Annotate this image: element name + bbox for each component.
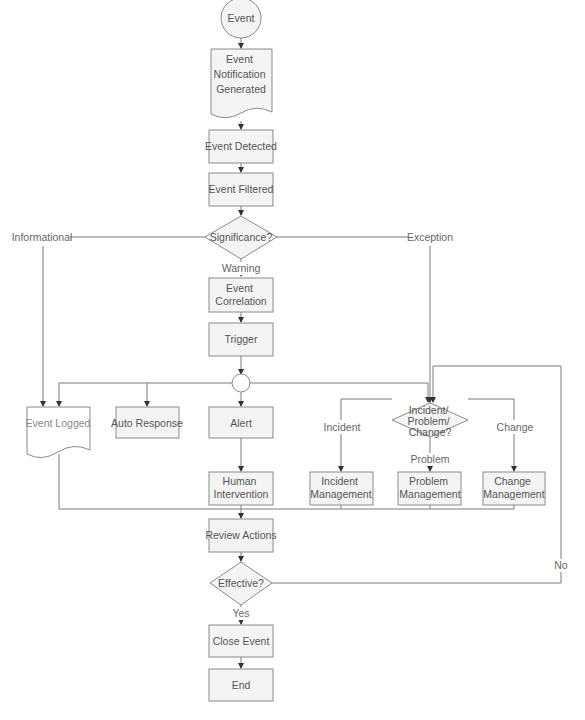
node-alert[interactable]: Alert [209, 407, 273, 438]
label-warning: Warning [222, 262, 261, 274]
node-incident-mgmt-line1: Incident [321, 475, 358, 487]
node-problem-mgmt-line1: Problem [409, 475, 448, 487]
node-effective-decision[interactable]: Effective? [210, 562, 272, 605]
node-correlation-line2: Correlation [215, 295, 267, 307]
node-junction [232, 374, 250, 392]
node-problem-management[interactable]: Problem Management [398, 472, 461, 505]
node-notification-line2: Notification [214, 68, 266, 80]
node-human-line2: Intervention [214, 488, 269, 500]
node-change-mgmt-line2: Management [483, 488, 544, 500]
node-start-event[interactable]: Event [221, 0, 261, 38]
node-incident-management[interactable]: Incident Management [310, 472, 373, 505]
label-yes: Yes [232, 607, 249, 619]
label-incident: Incident [324, 421, 361, 433]
node-trigger[interactable]: Trigger [209, 323, 273, 356]
node-notification-line1: Event [226, 53, 253, 65]
node-correlation-line1: Event [226, 282, 253, 294]
edge-ipc-change [468, 399, 514, 471]
node-notification-generated[interactable]: Event Notification Generated [211, 49, 272, 118]
node-event-filtered[interactable]: Event Filtered [209, 173, 274, 206]
node-event-logged[interactable]: Event Logged [26, 407, 91, 458]
node-change-mgmt-line1: Change [494, 475, 531, 487]
node-close-event[interactable]: Close Event [209, 625, 273, 657]
label-informational: Informational [12, 231, 73, 243]
node-ipc-label: Incident/ Problem/ Change? [408, 404, 453, 438]
node-trigger-label: Trigger [225, 333, 258, 345]
connectors [43, 38, 561, 668]
node-close-label: Close Event [213, 635, 270, 647]
node-auto-response[interactable]: Auto Response [111, 407, 183, 438]
label-exception: Exception [407, 231, 453, 243]
edge-junction-logged [59, 383, 232, 406]
edge-labels: Informational Exception Warning Incident… [12, 230, 569, 620]
node-change-management[interactable]: Change Management [483, 472, 545, 505]
node-end[interactable]: End [209, 669, 273, 701]
edge-ipc-incident [341, 399, 392, 471]
label-change: Change [497, 421, 534, 433]
node-human-intervention[interactable]: Human Intervention [209, 472, 273, 505]
label-no: No [554, 559, 568, 571]
node-logged-label: Event Logged [26, 417, 91, 429]
label-problem: Problem [410, 453, 449, 465]
node-notification-line3: Generated [216, 83, 266, 95]
node-human-line1: Human [223, 475, 257, 487]
node-significance-decision[interactable]: Significance? [205, 216, 277, 259]
node-significance-label: Significance? [210, 231, 273, 243]
node-event-correlation[interactable]: Event Correlation [209, 278, 273, 312]
node-ipc-decision[interactable]: Incident/ Problem/ Change? [392, 403, 468, 438]
node-ipc-line3: Change? [409, 426, 452, 438]
node-review-label: Review Actions [205, 529, 276, 541]
node-alert-label: Alert [230, 417, 252, 429]
node-problem-mgmt-line2: Management [399, 488, 460, 500]
edge-junction-ipc [250, 383, 428, 402]
node-start-label: Event [228, 12, 255, 24]
node-end-label: End [232, 679, 251, 691]
node-effective-label: Effective? [218, 577, 264, 589]
node-auto-response-label: Auto Response [111, 417, 183, 429]
node-event-detected[interactable]: Event Detected [205, 130, 277, 163]
node-detected-label: Event Detected [205, 140, 277, 152]
node-filtered-label: Event Filtered [209, 183, 274, 195]
node-review-actions[interactable]: Review Actions [205, 519, 276, 552]
node-incident-mgmt-line2: Management [310, 488, 371, 500]
event-management-flowchart: Event Event Notification Generated Event… [0, 0, 585, 720]
